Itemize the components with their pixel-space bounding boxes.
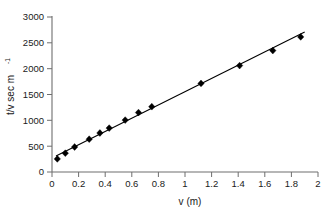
y-tick-label: 3000 (23, 11, 44, 22)
y-tick-label: 500 (28, 141, 44, 152)
chart-figure: 0 500 1000 1500 2000 2500 3000 0 0.2 (0, 0, 325, 219)
figure-caption (0, 211, 325, 219)
x-tick-label: 1.4 (232, 178, 245, 189)
y-tick-label: 1000 (23, 115, 44, 126)
x-tick-label: 0.8 (152, 178, 165, 189)
x-tick-label: 1 (182, 178, 187, 189)
x-axis-title: v (m) (179, 196, 202, 207)
x-tick-label: 0.4 (99, 178, 112, 189)
x-tick-label: 0.6 (125, 178, 138, 189)
y-axis-title-text: t/v sec m (5, 75, 16, 115)
x-tick-label: 0 (49, 178, 54, 189)
y-tick-label: 2000 (23, 63, 44, 74)
y-tick-label: 1500 (23, 89, 44, 100)
y-axis-title-superscript: -1 (4, 58, 11, 64)
x-tick-label: 2 (315, 178, 320, 189)
scatter-plot: 0 500 1000 1500 2000 2500 3000 0 0.2 (0, 0, 325, 219)
x-tick-label: 0.2 (72, 178, 85, 189)
x-tick-label: 1.6 (258, 178, 271, 189)
y-tick-label: 2500 (23, 37, 44, 48)
x-tick-label: 1.8 (285, 178, 298, 189)
x-tick-label: 1.2 (205, 178, 218, 189)
y-tick-label: 0 (39, 166, 44, 177)
